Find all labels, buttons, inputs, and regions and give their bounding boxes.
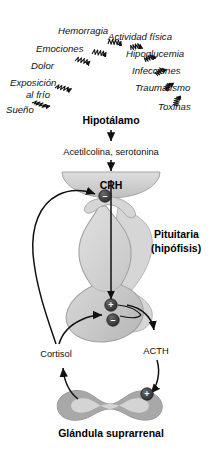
stressor-label-infecciones: Infecciones — [132, 65, 181, 76]
stressor-label-traumatismo: Traumatismo — [135, 82, 191, 93]
adrenal-medulla — [71, 398, 149, 413]
pituitary-inhibition-sign: – — [110, 315, 115, 325]
adrenal-stimulation-sign: + — [144, 389, 149, 399]
acth-label: ACTH — [143, 346, 168, 356]
zigzag-arrow-exposicion — [55, 85, 72, 91]
stressor-label-exposicion-al-frio: Exposición — [10, 77, 56, 88]
arrow-acth-to-adrenal — [151, 360, 159, 393]
cortisol-label: Cortisol — [40, 349, 72, 359]
stressor-label-actividad-fisica: Actividad física — [107, 31, 172, 42]
stressor-label-sueno: Sueño — [6, 104, 34, 115]
adrenal-label: Glándula suprarrenal — [58, 427, 164, 439]
feedback-node-adrenal-stimulation: + — [141, 388, 153, 400]
neurotransmitters-label: Acetilcolina, serotonina — [63, 147, 159, 157]
pituitary-label-line2: (hipófisis) — [151, 242, 201, 254]
pituitary-stimulation-sign: + — [108, 300, 113, 310]
feedback-node-pituitary-stimulation: + — [105, 299, 117, 311]
diagram-canvas: Hemorragia Emociones Dolor Exposición al… — [0, 0, 222, 450]
crh-inhibition-sign: – — [102, 191, 107, 201]
zigzag-arrow-sueno — [32, 101, 50, 107]
stressor-labels-group: Hemorragia Emociones Dolor Exposición al… — [6, 25, 191, 115]
pituitary-label-line1: Pituitaria — [154, 228, 199, 240]
zigzag-arrow-emociones — [92, 50, 106, 56]
stressor-label-hipoglucemia: Hipoglucemia — [126, 48, 184, 59]
stressor-label-emociones: Emociones — [36, 43, 84, 54]
hypothalamus-label: Hipotálamo — [82, 114, 139, 126]
zigzag-arrow-dolor — [75, 57, 90, 64]
stressor-label-dolor: Dolor — [31, 60, 55, 71]
feedback-node-pituitary-inhibition: – — [107, 314, 119, 326]
stressor-label-exposicion-al-frio-line2: al frío — [26, 89, 51, 100]
stressor-label-toxinas: Toxinas — [158, 101, 191, 112]
feedback-node-crh-inhibition: – — [99, 190, 111, 202]
stressor-label-hemorragia: Hemorragia — [58, 25, 108, 36]
hpa-axis-diagram: Hemorragia Emociones Dolor Exposición al… — [0, 0, 222, 450]
